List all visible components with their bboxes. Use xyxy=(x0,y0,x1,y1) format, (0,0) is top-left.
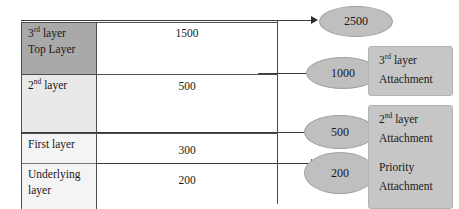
arrow-head-1 xyxy=(311,16,318,24)
layer-label-cell: 2nd layer xyxy=(22,75,97,133)
table-row: 2nd layer 500 xyxy=(22,75,277,134)
layer-value-cell: 1500 xyxy=(97,23,277,74)
layer-label-line2: layer xyxy=(28,183,96,199)
table-row: 3rd layer Top Layer 1500 xyxy=(22,23,277,75)
layer-value-cell: 200 xyxy=(97,164,277,209)
attachment-word: layer xyxy=(392,113,418,125)
layer-label-line2: Top Layer xyxy=(28,42,96,58)
value-node-200: 200 xyxy=(304,152,376,194)
table-row: First layer 300 xyxy=(22,134,277,164)
attachment-box-third-layer: 3rd layer Attachment xyxy=(368,46,453,96)
layer-label-word: layer xyxy=(41,79,67,91)
layer-value-cell: 500 xyxy=(97,75,277,133)
connector-line-3 xyxy=(21,132,311,133)
attachment-line2: Attachment xyxy=(379,177,452,196)
layer-label-cell: Underlying layer xyxy=(22,164,97,209)
table-row: Underlying layer 200 xyxy=(22,164,277,209)
layer-label-cell: 3rd layer Top Layer xyxy=(22,23,97,74)
layer-value-cell: 300 xyxy=(97,134,277,163)
attachment-word: layer xyxy=(391,54,417,66)
layer-label-number: Underlying xyxy=(28,167,96,183)
attachment-box-lower: 2nd layer Attachment Priority Attachment xyxy=(368,105,453,209)
attachment-word: Priority xyxy=(379,158,452,177)
connector-line-1 xyxy=(21,20,311,21)
layer-table: 3rd layer Top Layer 1500 2nd layer 500 F… xyxy=(21,22,277,209)
attachment-group-priority: Priority Attachment xyxy=(379,158,452,196)
connector-line-4 xyxy=(96,163,311,164)
value-node-2500: 2500 xyxy=(319,6,393,37)
layer-label-word: layer xyxy=(40,27,66,39)
value-node-500: 500 xyxy=(304,115,376,149)
layer-label-cell: First layer xyxy=(22,134,97,163)
connector-line-2 xyxy=(258,73,311,74)
attachment-group-second-layer: 2nd layer Attachment xyxy=(379,110,452,148)
diagram-canvas: 3rd layer Top Layer 1500 2nd layer 500 F… xyxy=(0,0,459,209)
connector-bus xyxy=(277,20,278,204)
attachment-line2: Attachment xyxy=(379,70,452,89)
layer-label-number: First layer xyxy=(28,137,96,153)
attachment-line2: Attachment xyxy=(379,129,452,148)
